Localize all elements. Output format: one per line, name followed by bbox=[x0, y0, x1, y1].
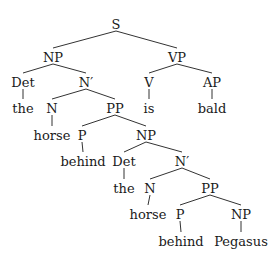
tree-node-behind2: behind bbox=[158, 234, 203, 249]
tree-node-pegasus: Pegasus bbox=[214, 234, 268, 249]
tree-node-nbar2: N′ bbox=[175, 154, 189, 169]
tree-edge bbox=[115, 115, 146, 126]
tree-edge bbox=[150, 168, 182, 179]
tree-node-the1: the bbox=[12, 101, 34, 116]
tree-node-bald: bald bbox=[198, 101, 227, 116]
tree-node-horse2: horse bbox=[130, 207, 167, 222]
tree-node-p1: P bbox=[78, 128, 87, 143]
tree-node-n2: N bbox=[144, 181, 155, 196]
tree-node-the2: the bbox=[113, 181, 135, 196]
tree-node-vp: VP bbox=[167, 50, 186, 65]
syntax-tree: SNPVPDetN′VAPtheNPPisbaldhorsePNPbehindD… bbox=[0, 0, 277, 261]
tree-edge bbox=[149, 64, 177, 73]
tree-node-ap: AP bbox=[202, 75, 221, 90]
tree-node-n1: N bbox=[46, 101, 57, 116]
tree-edge bbox=[182, 168, 210, 179]
tree-edge bbox=[148, 195, 150, 205]
tree-node-behind1: behind bbox=[60, 154, 105, 169]
tree-edge bbox=[210, 195, 241, 205]
tree-node-v: V bbox=[143, 75, 154, 90]
tree-nodes: SNPVPDetN′VAPtheNPPisbaldhorsePNPbehindD… bbox=[11, 17, 268, 249]
tree-node-np1: NP bbox=[43, 50, 63, 65]
tree-edge bbox=[82, 115, 115, 126]
tree-node-pp2: PP bbox=[201, 181, 219, 196]
tree-edge bbox=[52, 89, 86, 99]
tree-edge bbox=[53, 31, 116, 48]
tree-node-horse1: horse bbox=[34, 128, 71, 143]
tree-edge bbox=[146, 142, 182, 152]
tree-node-is: is bbox=[144, 101, 155, 116]
tree-node-det2: Det bbox=[112, 154, 136, 169]
tree-node-s: S bbox=[112, 17, 121, 32]
tree-node-nbar1: N′ bbox=[79, 75, 93, 90]
tree-node-np3: NP bbox=[231, 207, 251, 222]
tree-edge bbox=[124, 142, 146, 152]
tree-node-det1: Det bbox=[11, 75, 35, 90]
tree-edge bbox=[116, 31, 177, 48]
tree-edge bbox=[82, 142, 83, 152]
tree-node-pp1: PP bbox=[106, 101, 124, 116]
tree-edge bbox=[23, 64, 53, 73]
tree-edge bbox=[53, 64, 86, 73]
tree-edge bbox=[180, 221, 181, 232]
tree-node-np2: NP bbox=[136, 128, 156, 143]
tree-edge bbox=[86, 89, 115, 99]
tree-edge bbox=[177, 64, 212, 73]
tree-node-p2: P bbox=[176, 207, 185, 222]
tree-edge bbox=[180, 195, 210, 205]
